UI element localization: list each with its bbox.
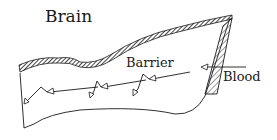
blood-label: Blood <box>223 69 261 84</box>
brain-label: Brain <box>45 6 92 26</box>
tissue-slab <box>20 18 230 128</box>
barrier-label: Barrier <box>126 55 174 70</box>
blood-brain-barrier-diagram: Brain Barrier Blood <box>0 0 277 140</box>
diffusion-arrows <box>24 72 190 104</box>
